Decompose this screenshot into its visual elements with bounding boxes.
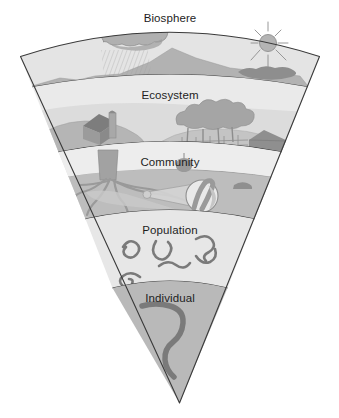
ecological-hierarchy-diagram: Biosphere: [0, 0, 339, 418]
label-community: Community: [140, 156, 199, 168]
silo-body: [109, 113, 116, 138]
label-ecosystem: Ecosystem: [141, 89, 198, 101]
magnifier-cone-tip: [143, 191, 151, 199]
label-population: Population: [142, 224, 197, 236]
band-population: Population: [86, 210, 255, 288]
silo: [109, 111, 117, 139]
band-community: Community: [58, 142, 282, 221]
label-biosphere: Biosphere: [144, 12, 197, 24]
tree-trunk: [98, 150, 118, 180]
label-individual: Individual: [145, 292, 195, 304]
band-individual: Individual: [113, 281, 228, 403]
cone-diagram-canvas: Biosphere: [0, 0, 339, 418]
